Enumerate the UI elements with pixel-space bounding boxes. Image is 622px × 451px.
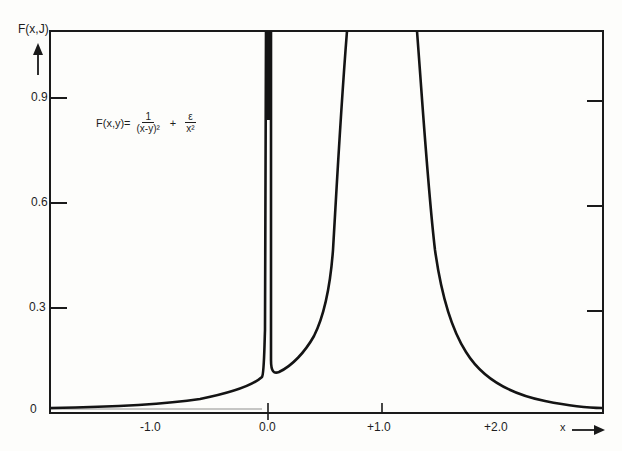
x-tick-label-1: +1.0 [367, 420, 391, 434]
formula-term1: 1 (x-y)² [135, 111, 162, 134]
x-axis-label: x [560, 421, 566, 433]
plot-frame [50, 31, 603, 413]
formula-annotation: F(x,y)= 1 (x-y)² + ε x² [96, 111, 199, 134]
formula-term2: ε x² [184, 111, 196, 134]
y-axis-arrow-icon [33, 43, 43, 55]
formula-term2-denominator: x² [184, 123, 196, 134]
formula-term1-denominator: (x-y)² [135, 123, 162, 134]
y-ticks-left [50, 98, 67, 308]
y-ticks-right [587, 101, 603, 311]
x-tick-label-0: 0.0 [259, 420, 276, 434]
formula-plus: + [170, 117, 176, 129]
plot-canvas [0, 0, 622, 451]
x-tick-label-neg1: -1.0 [140, 420, 161, 434]
curve-middle-branch [271, 31, 347, 373]
x-ticks [268, 403, 382, 420]
y-axis-label: F(x,J) [18, 22, 49, 36]
formula-term2-numerator: ε [185, 111, 195, 123]
y-tick-label-0.3: 0.3 [29, 300, 46, 314]
y-tick-label-0.6: 0.6 [31, 195, 48, 209]
x-axis-arrow-icon [594, 425, 605, 435]
x-tick-label-2: +2.0 [484, 420, 508, 434]
formula-term1-numerator: 1 [142, 111, 154, 123]
y-tick-label-0.9: 0.9 [31, 90, 48, 104]
curve-right-branch [417, 31, 602, 408]
y-tick-label-0: 0 [30, 402, 37, 416]
formula-lhs: F(x,y)= [96, 117, 131, 129]
curve-left-branch [51, 31, 266, 408]
